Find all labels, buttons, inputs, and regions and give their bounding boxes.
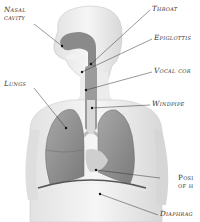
- label-nasal-cavity: Nasal cavity: [4, 6, 26, 22]
- label-diaphragm: Diaphrag: [160, 210, 193, 218]
- label-throat: Throat: [152, 5, 178, 13]
- label-position-of-heart: Posi of h: [178, 174, 194, 190]
- label-windpipe: Windpipe: [152, 100, 185, 108]
- label-epiglottis: Epiglottis: [154, 34, 191, 42]
- label-vocal-cords: Vocal cor: [154, 67, 191, 75]
- label-of-heart: of h: [178, 182, 194, 190]
- label-cavity: cavity: [4, 14, 26, 22]
- label-lungs: Lungs: [4, 80, 26, 88]
- respiratory-diagram: Nasal cavity Throat Epiglottis Vocal cor…: [0, 0, 200, 222]
